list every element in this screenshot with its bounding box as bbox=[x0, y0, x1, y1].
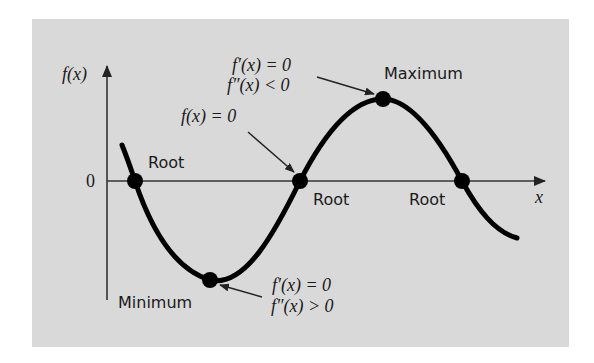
maximum-marker bbox=[375, 91, 391, 107]
maximum-condition-line1: f′(x) = 0 bbox=[232, 55, 291, 76]
root-2-marker bbox=[292, 173, 308, 189]
root-3-label: Root bbox=[409, 190, 445, 209]
minimum-marker bbox=[202, 272, 218, 288]
maximum-label: Maximum bbox=[384, 64, 463, 83]
y-axis-label: f(x) bbox=[62, 64, 87, 85]
root-condition-text: f(x) = 0 bbox=[181, 106, 236, 127]
maximum-condition-line2: f″(x) < 0 bbox=[227, 75, 290, 96]
minimum-condition-line1: f′(x) = 0 bbox=[272, 275, 331, 296]
root-3-marker bbox=[454, 173, 470, 189]
root-1-marker bbox=[127, 173, 143, 189]
origin-label: 0 bbox=[86, 171, 95, 191]
minimum-label: Minimum bbox=[118, 293, 192, 312]
root-1-label: Root bbox=[148, 153, 184, 172]
x-axis-label: x bbox=[534, 187, 543, 207]
root-2-label: Root bbox=[313, 190, 349, 209]
function-extrema-diagram: f(x) 0 x Root Root Root Maximum Minimum … bbox=[0, 0, 594, 363]
minimum-condition-line2: f″(x) > 0 bbox=[271, 296, 334, 317]
